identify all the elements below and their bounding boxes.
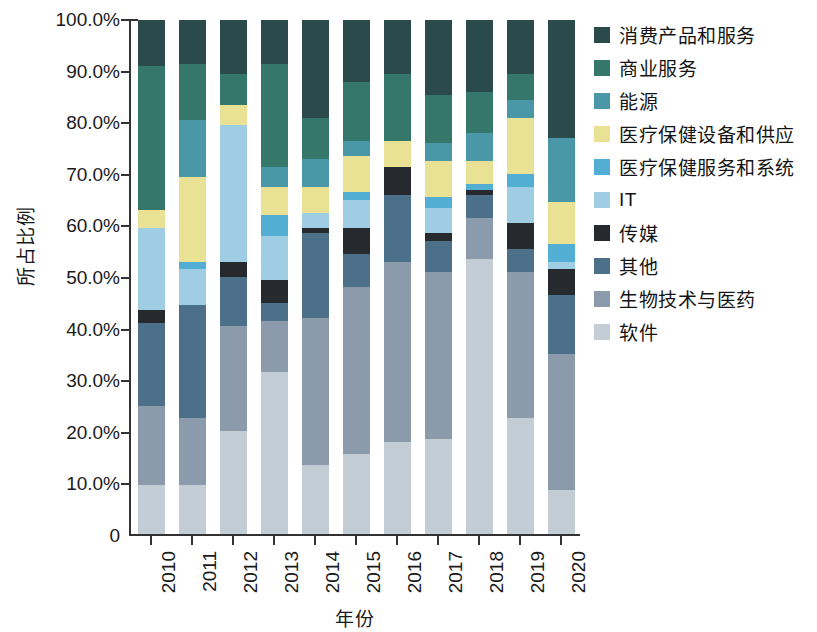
bar-segment[interactable] [261, 236, 288, 280]
bar-segment[interactable] [425, 241, 452, 272]
bar-segment[interactable] [302, 465, 329, 534]
bar-segment[interactable] [425, 439, 452, 534]
bar-column-2020[interactable] [548, 20, 575, 534]
bar-segment[interactable] [220, 262, 247, 277]
bar-segment[interactable] [507, 187, 534, 223]
bar-segment[interactable] [302, 159, 329, 187]
legend-item-0[interactable]: 消费产品和服务 [594, 18, 816, 51]
bar-segment[interactable] [384, 442, 411, 535]
bar-segment[interactable] [343, 192, 370, 200]
bar-segment[interactable] [548, 20, 575, 138]
bar-segment[interactable] [343, 228, 370, 254]
bar-segment[interactable] [138, 66, 165, 210]
bar-segment[interactable] [343, 200, 370, 228]
bar-segment[interactable] [138, 406, 165, 486]
bar-segment[interactable] [261, 280, 288, 303]
legend-item-3[interactable]: 医疗保健设备和供应 [594, 117, 816, 150]
bar-segment[interactable] [466, 133, 493, 161]
bar-segment[interactable] [261, 167, 288, 188]
legend-item-6[interactable]: 传媒 [594, 216, 816, 249]
bar-segment[interactable] [384, 195, 411, 262]
bar-segment[interactable] [425, 95, 452, 144]
legend-item-8[interactable]: 生物技术与医药 [594, 282, 816, 315]
bar-segment[interactable] [138, 228, 165, 310]
bar-segment[interactable] [220, 326, 247, 431]
bar-segment[interactable] [548, 202, 575, 243]
bar-column-2010[interactable] [138, 20, 165, 534]
bar-segment[interactable] [425, 20, 452, 95]
bar-segment[interactable] [507, 174, 534, 187]
bar-segment[interactable] [343, 82, 370, 141]
bar-segment[interactable] [425, 161, 452, 197]
bar-segment[interactable] [548, 138, 575, 202]
bar-segment[interactable] [343, 454, 370, 534]
bar-segment[interactable] [425, 233, 452, 241]
bar-segment[interactable] [466, 92, 493, 133]
legend-item-9[interactable]: 软件 [594, 315, 816, 348]
bar-segment[interactable] [220, 277, 247, 326]
bar-segment[interactable] [261, 64, 288, 167]
bar-segment[interactable] [138, 485, 165, 534]
bar-column-2019[interactable] [507, 20, 534, 534]
legend-item-4[interactable]: 医疗保健服务和系统 [594, 150, 816, 183]
bar-segment[interactable] [179, 485, 206, 534]
bar-segment[interactable] [302, 118, 329, 159]
bar-segment[interactable] [138, 210, 165, 228]
bar-segment[interactable] [466, 20, 493, 92]
bar-segment[interactable] [384, 262, 411, 442]
bar-column-2013[interactable] [261, 20, 288, 534]
bar-column-2015[interactable] [343, 20, 370, 534]
bar-segment[interactable] [179, 20, 206, 64]
bar-segment[interactable] [261, 321, 288, 372]
bar-segment[interactable] [343, 20, 370, 82]
bar-segment[interactable] [507, 118, 534, 175]
bar-segment[interactable] [261, 372, 288, 534]
bar-segment[interactable] [179, 177, 206, 262]
bar-segment[interactable] [466, 195, 493, 218]
bar-segment[interactable] [220, 105, 247, 126]
bar-column-2016[interactable] [384, 20, 411, 534]
bar-segment[interactable] [302, 20, 329, 118]
legend-item-1[interactable]: 商业服务 [594, 51, 816, 84]
bar-segment[interactable] [548, 244, 575, 262]
bar-segment[interactable] [138, 310, 165, 323]
bar-segment[interactable] [425, 197, 452, 207]
bar-segment[interactable] [220, 125, 247, 261]
bar-segment[interactable] [261, 187, 288, 215]
bar-segment[interactable] [548, 262, 575, 270]
bar-segment[interactable] [179, 64, 206, 121]
legend-item-7[interactable]: 其他 [594, 249, 816, 282]
bar-segment[interactable] [343, 287, 370, 454]
bar-segment[interactable] [507, 74, 534, 100]
bar-segment[interactable] [138, 20, 165, 66]
bar-column-2014[interactable] [302, 20, 329, 534]
bar-segment[interactable] [548, 490, 575, 534]
bar-segment[interactable] [384, 20, 411, 74]
bar-segment[interactable] [507, 223, 534, 249]
bar-segment[interactable] [138, 323, 165, 405]
bar-segment[interactable] [179, 418, 206, 485]
bar-column-2017[interactable] [425, 20, 452, 534]
bar-segment[interactable] [507, 100, 534, 118]
bar-segment[interactable] [220, 431, 247, 534]
bar-segment[interactable] [179, 262, 206, 270]
bar-segment[interactable] [302, 318, 329, 465]
bar-segment[interactable] [466, 259, 493, 534]
bar-segment[interactable] [384, 167, 411, 195]
bar-segment[interactable] [220, 20, 247, 74]
bar-column-2018[interactable] [466, 20, 493, 534]
bar-segment[interactable] [302, 213, 329, 228]
bar-segment[interactable] [343, 156, 370, 192]
bar-segment[interactable] [302, 233, 329, 318]
bar-segment[interactable] [507, 249, 534, 272]
bar-segment[interactable] [220, 74, 247, 105]
bar-segment[interactable] [261, 303, 288, 321]
bar-segment[interactable] [179, 305, 206, 418]
bar-segment[interactable] [261, 215, 288, 236]
bar-segment[interactable] [343, 254, 370, 287]
bar-segment[interactable] [548, 295, 575, 354]
bar-segment[interactable] [507, 272, 534, 419]
bar-segment[interactable] [548, 354, 575, 490]
bar-segment[interactable] [343, 141, 370, 156]
legend-item-5[interactable]: IT [594, 183, 816, 216]
